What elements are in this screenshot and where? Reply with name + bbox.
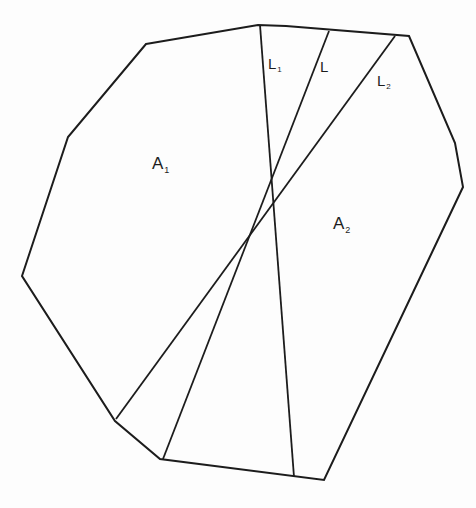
label-a1-main: A (152, 154, 163, 173)
label-region-a2: A2 (333, 215, 350, 232)
label-l2-main: L (377, 72, 385, 89)
label-a2-sub: 2 (345, 225, 350, 235)
polygon-figure (0, 0, 476, 508)
label-l1-sub: 1 (277, 65, 281, 74)
label-l2-sub: 2 (386, 82, 390, 91)
diagram-canvas: L1 L L2 A1 A2 (0, 0, 476, 508)
label-l: L (320, 59, 328, 75)
label-l2: L2 (377, 73, 391, 89)
label-a1-sub: 1 (164, 165, 169, 175)
label-l1-main: L (268, 55, 276, 72)
label-region-a1: A1 (152, 155, 169, 172)
label-l-main: L (320, 58, 328, 75)
line-l (163, 31, 329, 459)
line-l1 (260, 25, 294, 477)
label-l1: L1 (268, 56, 282, 72)
label-a2-main: A (333, 214, 344, 233)
line-l2 (116, 36, 395, 419)
